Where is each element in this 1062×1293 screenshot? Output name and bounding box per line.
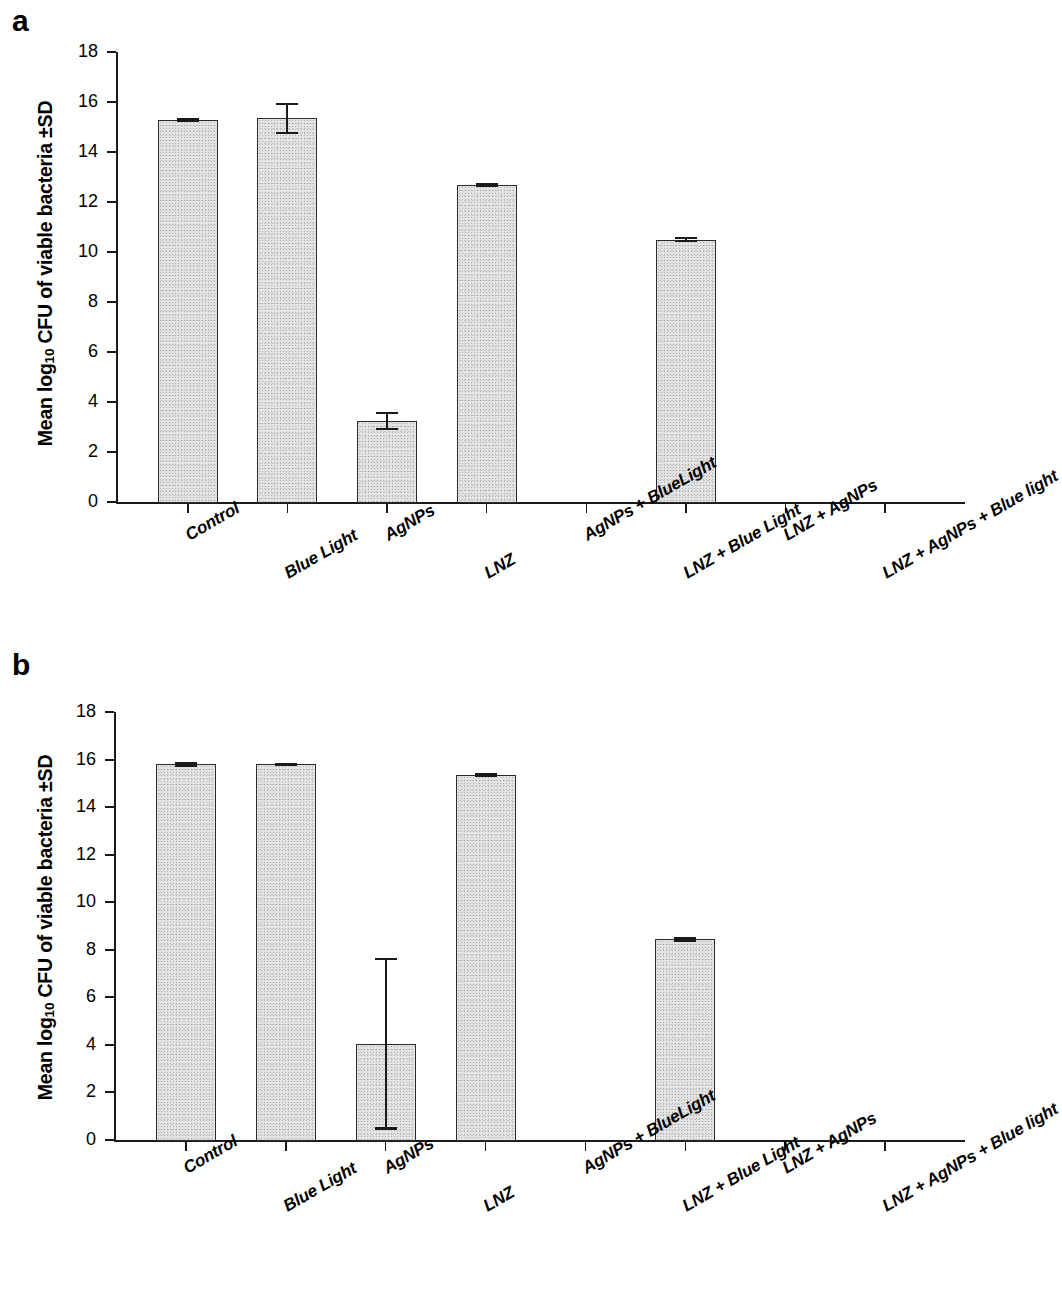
- y-axis-tick: [107, 101, 116, 103]
- y-axis-tick: [105, 1139, 114, 1141]
- y-axis-tick-label: 14: [52, 142, 98, 160]
- y-axis-tick-label: 16: [52, 92, 98, 110]
- x-axis-label: LNZ + AgNPs + Blue light: [879, 1099, 1062, 1216]
- bar-blue-light: [257, 118, 317, 503]
- y-axis-tick-label: 8: [50, 940, 96, 958]
- error-bar-cap-bottom: [276, 132, 298, 134]
- y-axis-tick: [107, 351, 116, 353]
- y-axis-tick-label: 8: [52, 292, 98, 310]
- y-axis-tick: [105, 1044, 114, 1046]
- y-axis-tick-label: 18: [50, 702, 96, 720]
- y-axis-tick-label: 14: [50, 797, 96, 815]
- bar-lnz: [457, 185, 517, 504]
- y-axis-tick: [107, 51, 116, 53]
- y-axis-line: [116, 52, 118, 504]
- x-axis-label: Control: [182, 498, 243, 545]
- bar-control: [158, 120, 218, 504]
- error-bar-cap-bottom: [375, 1127, 397, 1129]
- y-axis-tick: [105, 854, 114, 856]
- panel-b-x-axis-labels: ControlBlue LightAgNPsLNZAgNPs + BlueLig…: [0, 1143, 965, 1293]
- y-axis-tick: [107, 401, 116, 403]
- y-axis-tick-label: 18: [52, 42, 98, 60]
- error-bar-cap-top: [376, 412, 398, 414]
- x-axis-label: LNZ: [480, 1183, 518, 1217]
- y-axis-tick-label: 2: [50, 1082, 96, 1100]
- x-axis-label: LNZ: [481, 550, 519, 584]
- error-bar-cap-bottom: [175, 764, 197, 766]
- panel-a-letter: a: [12, 4, 28, 38]
- y-axis-tick-label: 4: [52, 392, 98, 410]
- x-axis-label: LNZ + AgNPs + Blue light: [879, 466, 1062, 583]
- y-axis-tick: [105, 1091, 114, 1093]
- y-axis-tick: [105, 759, 114, 761]
- error-bar-stem: [385, 958, 387, 1129]
- y-axis-tick-label: 0: [52, 492, 98, 510]
- y-axis-tick-label: 6: [50, 987, 96, 1005]
- error-bar-cap-bottom: [275, 764, 297, 766]
- y-axis-tick-label: 12: [50, 845, 96, 863]
- panel-b: b Mean log10 CFU of viable bacteria ±SD …: [0, 646, 965, 1293]
- error-bar-cap-bottom: [674, 939, 696, 941]
- panel-b-letter: b: [12, 648, 30, 682]
- error-bar-cap-top: [276, 103, 298, 105]
- y-axis-tick-label: 4: [50, 1035, 96, 1053]
- bar-blue-light: [256, 764, 316, 1141]
- y-axis-tick-label: 10: [52, 242, 98, 260]
- y-axis-title-post: CFU of viable bacteria ±SD: [34, 755, 56, 1003]
- error-bar-cap-bottom: [675, 240, 697, 242]
- y-axis-tick-label: 12: [52, 192, 98, 210]
- y-axis-tick: [105, 996, 114, 998]
- error-bar-stem: [286, 103, 288, 134]
- y-axis-tick: [107, 501, 116, 503]
- y-axis-tick: [107, 151, 116, 153]
- bar-control: [156, 764, 216, 1141]
- x-axis-label: AgNPs: [381, 501, 438, 546]
- y-axis-tick-label: 2: [52, 442, 98, 460]
- x-axis-label: Blue Light: [281, 525, 361, 583]
- y-axis-tick: [107, 251, 116, 253]
- error-bar-cap-bottom: [476, 184, 498, 186]
- y-axis-tick: [105, 806, 114, 808]
- y-axis-tick: [105, 711, 114, 713]
- y-axis-tick: [107, 451, 116, 453]
- y-axis-title-post: CFU of viable bacteria ±SD: [34, 101, 56, 349]
- x-axis-label: LNZ + Blue Light: [680, 500, 805, 583]
- x-axis-label: LNZ + Blue Light: [679, 1133, 804, 1216]
- y-axis-tick-label: 10: [50, 892, 96, 910]
- y-axis-tick: [107, 301, 116, 303]
- y-axis-tick-label: 16: [50, 750, 96, 768]
- y-axis-tick: [107, 201, 116, 203]
- y-axis-tick-label: 6: [52, 342, 98, 360]
- bar-agnps: [357, 421, 417, 503]
- y-axis-tick: [105, 949, 114, 951]
- error-bar-cap-top: [375, 958, 397, 960]
- panel-a: a Mean log10 CFU of viable bacteria ±SD …: [0, 0, 965, 646]
- y-axis-line: [114, 712, 116, 1142]
- y-axis-tick: [105, 901, 114, 903]
- error-bar-cap-bottom: [177, 120, 199, 122]
- error-bar-cap-bottom: [475, 775, 497, 777]
- bar-lnz: [456, 775, 516, 1141]
- error-bar-cap-bottom: [376, 428, 398, 430]
- x-axis-label: Blue Light: [280, 1158, 360, 1216]
